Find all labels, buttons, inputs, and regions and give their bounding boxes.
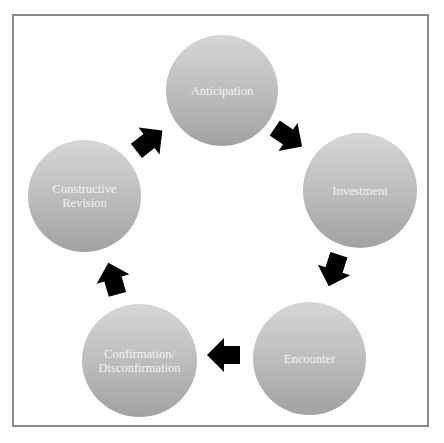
node-label: Constructive Revision — [47, 182, 123, 210]
node-label: Encounter — [278, 352, 341, 366]
node-confirmation: Confirmation/ Disconfirmation — [82, 304, 197, 417]
arrow-right-icon — [206, 337, 242, 373]
node-encounter: Encounter — [253, 302, 366, 415]
node-label: Anticipation — [185, 84, 260, 98]
node-label: Investment — [326, 184, 394, 198]
node-label: Confirmation/ Disconfirmation — [93, 347, 187, 375]
node-anticipation: Anticipation — [166, 35, 278, 146]
node-investment: Investment — [303, 133, 417, 248]
node-constructive-revision: Constructive Revision — [28, 140, 141, 252]
